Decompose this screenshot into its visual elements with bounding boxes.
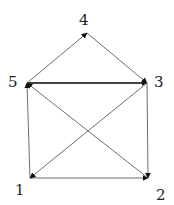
edge-5-to-4: [27, 33, 87, 83]
directed-graph: 12345: [0, 0, 174, 205]
labels-group: 12345: [8, 11, 166, 204]
node-label-1: 1: [15, 181, 25, 199]
node-label-4: 4: [79, 11, 89, 29]
node-label-3: 3: [154, 73, 164, 91]
edge-4-to-3: [87, 33, 147, 83]
edge-1-to-5: [27, 83, 30, 178]
edge-3-to-2: [147, 83, 148, 178]
node-label-5: 5: [8, 73, 18, 91]
edges-group: [27, 33, 148, 178]
node-label-2: 2: [156, 186, 166, 204]
